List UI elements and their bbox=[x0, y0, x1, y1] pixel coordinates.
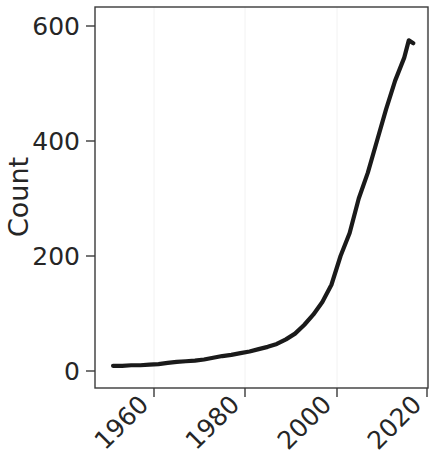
x-tickmarks bbox=[154, 388, 427, 397]
y-tick-label-0: 0 bbox=[64, 357, 80, 386]
x-tick-label-2000: 2000 bbox=[272, 390, 337, 455]
x-tick-label-1980: 1980 bbox=[180, 390, 245, 455]
data-series-line bbox=[113, 40, 413, 365]
x-tick-label-1960: 1960 bbox=[89, 390, 154, 455]
gridlines bbox=[154, 7, 427, 388]
y-tick-label-400: 400 bbox=[32, 127, 80, 156]
y-tick-label-600: 600 bbox=[32, 12, 80, 41]
y-tick-label-200: 200 bbox=[32, 242, 80, 271]
y-axis-title: Count bbox=[3, 157, 34, 237]
line-chart-svg: 600 400 200 0 1960 1980 2000 2020 Count bbox=[0, 0, 436, 457]
x-tick-label-2020: 2020 bbox=[362, 390, 427, 455]
chart-figure: 600 400 200 0 1960 1980 2000 2020 Count bbox=[0, 0, 436, 457]
plot-frame bbox=[95, 7, 428, 388]
y-tickmarks bbox=[86, 26, 95, 371]
